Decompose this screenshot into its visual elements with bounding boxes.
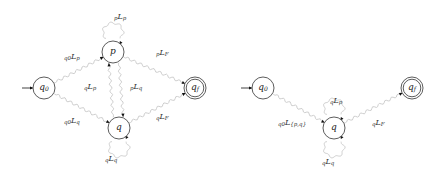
state-p-left: p xyxy=(110,47,116,56)
state-q0-right: q0 xyxy=(258,83,268,92)
automata-diagram-canvas xyxy=(0,0,437,177)
edge-label-q-q: qLq xyxy=(105,155,117,164)
edge-label-q-p: qLp xyxy=(84,83,96,92)
edge-label-q-q-bottom-right: qLq xyxy=(322,158,334,167)
edge-label-p-qf: pLF xyxy=(156,49,169,58)
state-q-left: q xyxy=(116,123,122,132)
edge-label-q-qf-right: qLF xyxy=(372,119,385,128)
edge-label-q0-p: q0Lp xyxy=(64,53,80,62)
state-q-right: q xyxy=(331,123,337,132)
state-qf-right: qf xyxy=(408,83,416,92)
edge-label-p-q: pLq xyxy=(130,83,142,92)
state-qf-left: qf xyxy=(191,83,199,92)
edge-label-q0-q-right: q0L{p,q} xyxy=(278,119,306,128)
edge-label-q-q-top-right: qLp xyxy=(330,97,342,106)
edge-label-q0-q: q0Lq xyxy=(64,117,80,126)
edge-label-p-p: pLp xyxy=(114,13,126,22)
state-q0-left: q0 xyxy=(39,83,49,92)
edge-label-q-qf: qLF xyxy=(156,113,169,122)
